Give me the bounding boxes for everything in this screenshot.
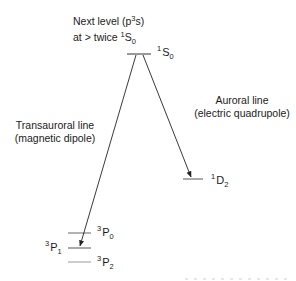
level-3P2-label: 3P2	[97, 254, 114, 271]
auroral-label: Auroral line (electric quadrupole)	[192, 94, 292, 120]
next-level-note-line2: at > twice 1S0	[73, 28, 136, 48]
level-3P1-label: 3P1	[45, 239, 62, 256]
transauroral-arrow	[80, 55, 136, 246]
transauroral-label: Transauroral line (magnetic dipole)	[10, 119, 100, 145]
level-1S0-label: 1S0	[157, 44, 174, 61]
auroral-arrow	[143, 55, 191, 177]
next-level-note: Next level (p3s)	[73, 12, 144, 28]
level-3P0-label: 3P0	[97, 224, 114, 241]
level-1D2-label: 1D2	[211, 172, 228, 189]
